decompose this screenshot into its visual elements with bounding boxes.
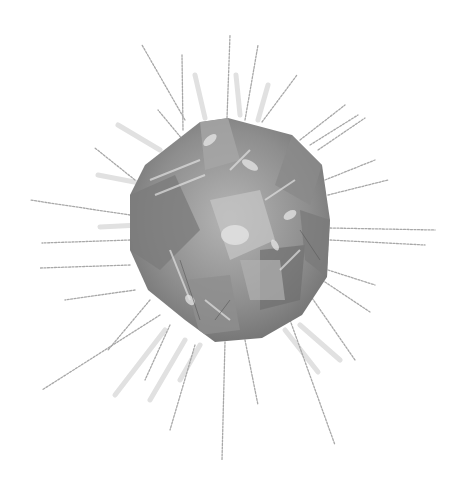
illustration: Grayscale illustration of a faceted crys… bbox=[0, 0, 462, 497]
crystal-illustration bbox=[0, 0, 462, 497]
